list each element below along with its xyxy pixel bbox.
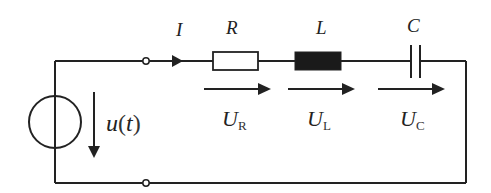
voltage-arrowhead-inductor-icon <box>342 83 355 95</box>
inductor-icon <box>295 52 341 70</box>
current-arrow-icon <box>172 55 183 67</box>
source-label: u(t) <box>106 110 141 136</box>
current-label: I <box>175 19 184 40</box>
voltage-label-inductor: UL <box>307 106 331 133</box>
voltage-label-resistor-sub: R <box>238 118 247 133</box>
voltage-label-inductor-sub: L <box>323 118 331 133</box>
resistor-label: R <box>225 17 238 38</box>
terminal-bottom <box>143 180 149 186</box>
resistor-icon <box>213 52 258 70</box>
source-label-paren-close: ) <box>133 110 141 136</box>
capacitor-icon <box>411 45 420 78</box>
voltage-arrowhead-resistor-icon <box>258 83 271 95</box>
inductor-label: L <box>315 17 327 38</box>
capacitor-label: C <box>407 15 420 36</box>
rlc-circuit-diagram: I u(t) R L C UR UL UC <box>0 0 491 193</box>
voltage-arrowhead-capacitor-icon <box>432 83 445 95</box>
terminal-top <box>143 58 149 64</box>
voltage-label-capacitor: UC <box>400 106 425 133</box>
source-label-main: u <box>106 110 118 136</box>
voltage-label-resistor: UR <box>222 106 247 133</box>
voltage-label-capacitor-sub: C <box>416 118 425 133</box>
source-voltage-arrow-icon <box>88 146 100 158</box>
source-label-paren-open: ( <box>118 110 126 136</box>
